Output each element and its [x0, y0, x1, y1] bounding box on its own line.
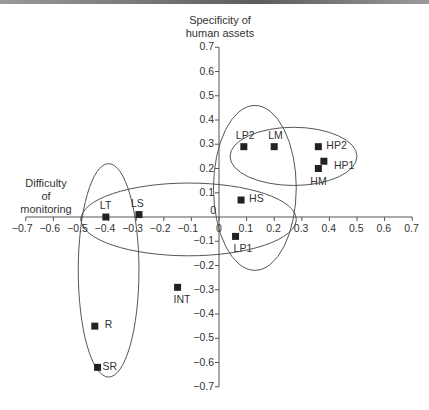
cluster-ellipse	[81, 183, 296, 256]
data-point-marker	[91, 323, 98, 330]
y-tick-label: −0.7	[193, 380, 214, 392]
y-tick-label: −0.1	[193, 234, 214, 246]
data-point-marker	[102, 214, 109, 221]
x-tick-label: 0.3	[294, 222, 309, 234]
x-tick-label: −0.6	[39, 222, 60, 234]
x-axis-title-line1: Difficulty	[16, 177, 76, 190]
x-tick-label: 0.5	[349, 222, 364, 234]
x-tick-label: −0.1	[177, 222, 198, 234]
x-axis-title-line2: of	[16, 190, 76, 203]
data-point-marker	[135, 211, 142, 218]
x-tick-label: −0.3	[122, 222, 143, 234]
data-point-marker	[174, 284, 181, 291]
data-point-marker	[271, 143, 278, 150]
y-axis-title-line1: Specificity of	[170, 14, 270, 27]
y-tick-label: 0.3	[199, 137, 214, 149]
x-tick-label: −0.7	[12, 222, 33, 234]
data-point-label: LS	[131, 197, 144, 209]
y-tick-label: 0	[210, 204, 216, 216]
data-point-label: LP1	[234, 242, 253, 254]
x-axis-title-line3: monitoring	[16, 203, 76, 216]
data-point-marker	[320, 158, 327, 165]
data-point-marker	[315, 165, 322, 172]
x-tick-label: 0.1	[239, 222, 254, 234]
y-tick-label: 0.5	[199, 89, 214, 101]
data-point-label: INT	[174, 293, 191, 305]
data-point-marker	[240, 143, 247, 150]
data-point-label: HM	[310, 175, 326, 187]
data-point-label: HP2	[326, 139, 346, 151]
cluster-ellipse	[78, 164, 139, 377]
x-tick-label: 0	[216, 222, 222, 234]
y-tick-label: 0.4	[199, 113, 214, 125]
data-point-marker	[94, 364, 101, 371]
y-tick-label: −0.5	[193, 331, 214, 343]
x-tick-label: −0.5	[67, 222, 88, 234]
data-point-label: SR	[103, 360, 118, 372]
x-tick-label: −0.2	[150, 222, 171, 234]
data-point-label: HP1	[334, 159, 354, 171]
data-point-label: HS	[249, 192, 264, 204]
y-tick-label: 0.2	[199, 162, 214, 174]
x-tick-label: 0.6	[377, 222, 392, 234]
y-tick-label: 0.7	[199, 40, 214, 52]
data-point-marker	[238, 197, 245, 204]
y-tick-label: 0.6	[199, 65, 214, 77]
y-tick-label: 0.1	[199, 186, 214, 198]
y-tick-label: −0.3	[193, 283, 214, 295]
y-tick-label: −0.2	[193, 259, 214, 271]
data-point-label: LM	[268, 129, 283, 141]
data-point-label: LT	[100, 199, 111, 211]
data-point-marker	[315, 143, 322, 150]
x-tick-label: 0.2	[266, 222, 281, 234]
y-tick-label: −0.4	[193, 307, 214, 319]
y-tick-label: −0.6	[193, 356, 214, 368]
data-point-label: LP2	[236, 129, 255, 141]
x-tick-label: 0.7	[404, 222, 419, 234]
y-axis-title-line2: human assets	[170, 27, 270, 40]
x-tick-label: 0.4	[321, 222, 336, 234]
x-tick-label: −0.4	[95, 222, 116, 234]
data-point-label: R	[105, 318, 113, 330]
cluster-ellipse	[213, 105, 296, 270]
y-axis-title: Specificity of human assets	[170, 14, 270, 40]
x-axis-title: Difficulty of monitoring	[16, 177, 76, 216]
